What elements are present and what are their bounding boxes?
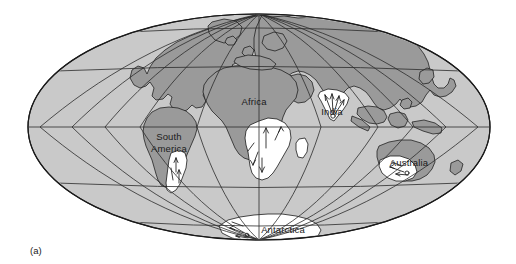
label-australia: Australia [390, 157, 429, 168]
label-antarctica: Antarctica [261, 224, 305, 235]
world-map-svg: Africa South America India Australia Ant… [0, 0, 516, 264]
label-south-america-line1: South [156, 131, 182, 142]
label-india: India [321, 106, 343, 117]
figure-world-map: Africa South America India Australia Ant… [0, 0, 516, 264]
label-south-america-line2: America [151, 143, 187, 154]
figure-caption: (a) [30, 245, 42, 256]
label-africa: Africa [241, 96, 267, 107]
